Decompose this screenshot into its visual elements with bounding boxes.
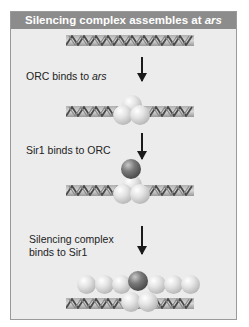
step-label-orc-binds: ORC binds to ars [26, 70, 107, 83]
title-text: Silencing complex assembles at [25, 14, 205, 26]
silencing-complex-protein-icon [181, 275, 200, 294]
sir1-protein-icon [128, 271, 148, 291]
orc-protein-icon [130, 184, 150, 204]
diagram-title: Silencing complex assembles at ars [11, 12, 236, 29]
down-arrow-icon [141, 226, 143, 254]
step-label-sir1-binds: Sir1 binds to ORC [26, 144, 111, 157]
diagram-panel: Silencing complex assembles at ars ORC b… [10, 11, 237, 320]
orc-protein-icon [138, 292, 158, 312]
dna-double-helix-icon [66, 35, 194, 46]
silencing-complex-protein-icon [77, 275, 96, 294]
title-italic-term: ars [205, 14, 222, 26]
orc-protein-icon [130, 105, 150, 125]
sir1-protein-icon [121, 159, 141, 179]
step-label-silencing-complex-binds: Silencing complexbinds to Sir1 [29, 233, 114, 258]
down-arrow-icon [141, 133, 143, 159]
down-arrow-icon [141, 57, 143, 81]
